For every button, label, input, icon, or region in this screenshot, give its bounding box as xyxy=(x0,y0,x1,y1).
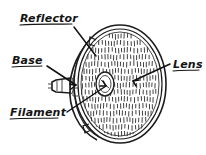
diagram-canvas: Reflector Base Filament Lens xyxy=(0,0,206,155)
label-lens-text: Lens xyxy=(173,58,203,71)
label-filament-text: Filament xyxy=(10,106,67,119)
label-base-text: Base xyxy=(12,54,43,67)
label-filament: Filament xyxy=(10,106,67,119)
label-reflector: Reflector xyxy=(20,12,78,25)
label-base: Base xyxy=(12,54,43,67)
label-reflector-text: Reflector xyxy=(20,12,78,25)
base-stub xyxy=(48,76,75,95)
label-lens: Lens xyxy=(173,58,203,71)
